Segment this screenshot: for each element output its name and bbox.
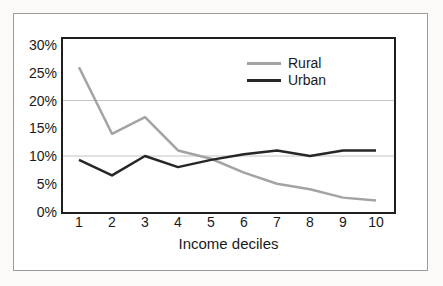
x-tick-label: 5 [207,214,215,230]
urban-series-swatch [247,79,281,82]
x-tick-label: 7 [273,214,281,230]
y-tick-label: 5% [37,176,57,192]
legend-item-rural: Rural [247,55,326,72]
y-tick-label: 10% [29,148,57,164]
x-tick-label: 6 [240,214,248,230]
chart-legend: Rural Urban [247,55,326,89]
x-axis-title: Income deciles [62,235,395,252]
x-tick-label: 4 [174,214,182,230]
rural-series-swatch [247,62,281,65]
legend-label-urban: Urban [288,72,326,89]
y-tick-label: 20% [29,93,57,109]
series-line-rural [79,67,376,200]
legend-item-urban: Urban [247,72,326,89]
scanned-chart-figure: 0%5%10%15%20%25%30%12345678910 Rural Urb… [0,0,443,286]
plot-border [62,38,395,213]
x-tick-label: 2 [108,214,116,230]
x-tick-label: 9 [339,214,347,230]
series-line-urban [79,150,376,175]
x-tick-label: 8 [306,214,314,230]
x-tick-label: 3 [141,214,149,230]
y-tick-label: 30% [29,37,57,53]
y-tick-label: 25% [29,65,57,81]
x-tick-label: 10 [368,214,384,230]
y-tick-label: 15% [29,120,57,136]
legend-label-rural: Rural [288,55,321,72]
x-tick-label: 1 [75,214,83,230]
y-tick-label: 0% [37,204,57,220]
